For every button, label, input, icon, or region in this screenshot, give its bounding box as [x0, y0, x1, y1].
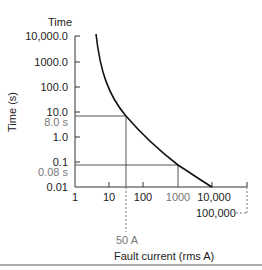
bottom-divider — [0, 264, 262, 266]
x-mark-50a: 50 A — [116, 234, 138, 246]
x-axis-title: Fault current (rms A) — [114, 250, 214, 262]
y-header: Time — [48, 16, 72, 28]
x-tick-100: 100 — [134, 191, 152, 203]
x-tick-10000: 10,000 — [197, 191, 231, 203]
y-tick-1: 1.0 — [0, 131, 68, 143]
x-tick-1000: 1000 — [166, 191, 190, 203]
y-ticks — [75, 36, 80, 162]
x-tick-100000: 100,000 — [196, 207, 236, 219]
x-tick-10: 10 — [103, 191, 115, 203]
y-tick-10000: 10,000.0 — [0, 30, 68, 42]
y-mark-0.08s: 0.08 s — [0, 166, 68, 178]
time-current-curve — [96, 34, 212, 187]
y-tick-0.01: 0.01 — [0, 181, 68, 193]
x-tick-1: 1 — [72, 191, 78, 203]
y-tick-1000: 1000.0 — [0, 56, 68, 68]
y-axis-title: Time (s) — [6, 92, 18, 132]
